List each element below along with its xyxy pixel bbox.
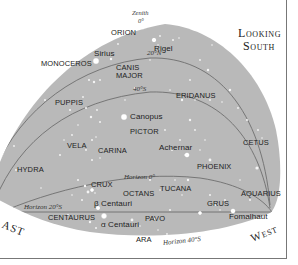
zenith-mark: 0° <box>138 18 144 25</box>
zenith-label: Zenith <box>132 10 149 17</box>
arc-label-40s: 40°S <box>133 86 146 93</box>
constellation-ara: ARA <box>136 236 152 244</box>
constellation-carina: CARINA <box>98 147 127 155</box>
title-line-2: South <box>238 40 281 53</box>
title-line-1: Looking <box>238 27 281 40</box>
frame-bottom-border <box>0 258 287 259</box>
constellation-aquarius: AQUARIUS <box>241 190 281 198</box>
star-achernar <box>184 152 190 158</box>
constellation-vela: VELA <box>67 142 87 150</box>
constellation-pictor: PICTOR <box>130 128 159 136</box>
arc-label-horizon-20s: Horizon 20°S <box>24 204 62 211</box>
arc-label-20n: 20°N <box>147 50 161 57</box>
chart-title: Looking South <box>238 27 281 52</box>
constellation-cetus: CETUS <box>243 139 269 147</box>
star-alpha-centauri <box>101 213 107 219</box>
star-betelgeuse <box>141 26 145 30</box>
star-rigel <box>151 37 156 42</box>
constellation-eridanus: ERIDANUS <box>176 92 216 100</box>
constellation-tucana: TUCANA <box>160 185 191 193</box>
constellation-centaurus: CENTAURUS <box>48 214 95 222</box>
constellation-pavo: PAVO <box>145 215 165 223</box>
star-label-beta-centauri: β Centauri <box>94 200 132 208</box>
constellation-orion: ORION <box>111 29 136 37</box>
constellation-hydra: HYDRA <box>17 166 44 174</box>
canis-major-line-2: MAJOR <box>116 72 143 80</box>
constellation-phoenix: PHOENIX <box>197 163 231 171</box>
constellation-crux: CRUX <box>91 181 113 189</box>
star-peacock <box>198 211 202 215</box>
star-label-achernar: Achernar <box>159 144 192 152</box>
star-label-sirius: Sirius <box>94 50 115 58</box>
constellation-puppis: PUPPIS <box>55 99 83 107</box>
star-canopus <box>120 113 127 120</box>
star-label-alpha-centauri: α Centauri <box>101 221 139 229</box>
star-label-fomalhaut: Fomalhaut <box>229 213 268 221</box>
star-label-canopus: Canopus <box>130 113 163 121</box>
frame-right-border <box>286 0 287 258</box>
star-sirius <box>92 57 99 64</box>
constellation-grus: GRUS <box>207 200 229 208</box>
constellation-monoceros: MONOCEROS <box>41 60 92 68</box>
constellation-octans: OCTANS <box>123 190 154 198</box>
arc-label-horizon-0: Horizon 0° <box>124 174 155 181</box>
constellation-canis-major: CANIS MAJOR <box>116 64 143 81</box>
